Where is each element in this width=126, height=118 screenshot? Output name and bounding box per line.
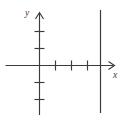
coordinate-plane-figure: y x [0,0,126,118]
y-axis-label: y [24,8,30,18]
x-axis-label: x [112,70,118,80]
cartesian-graph-svg: y x [0,0,126,118]
